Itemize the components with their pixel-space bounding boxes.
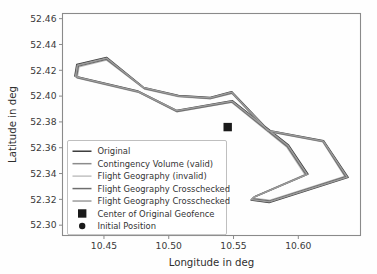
x-tick-label: 10.45 — [91, 240, 117, 251]
y-tick-label: 52.34 — [30, 168, 56, 179]
y-tick-label: 52.44 — [30, 39, 56, 50]
legend-item-label: Center of Original Geofence — [98, 209, 215, 219]
y-tick-label: 52.38 — [30, 116, 56, 127]
x-tick-label: 10.55 — [220, 240, 246, 251]
figure-canvas: OriginalContingency Volume (valid)Flight… — [0, 0, 377, 274]
geofence-center-marker — [223, 123, 231, 131]
legend-circle-swatch — [79, 223, 85, 229]
y-tick-label: 52.30 — [30, 219, 56, 230]
legend-item-label: Flight Geography (invalid) — [98, 171, 207, 181]
legend-item-label: Original — [98, 146, 131, 156]
legend-item[interactable]: Center of Original Geofence — [78, 209, 214, 219]
x-axis-title: Longitude in deg — [169, 257, 255, 268]
legend-item-label: Flight Geography Crosschecked — [98, 184, 231, 194]
legend-item-label: Flight Geography Crosschecked — [98, 196, 231, 206]
legend-item-label: Initial Position — [98, 221, 156, 231]
y-tick-label: 52.46 — [30, 13, 56, 24]
geofence-scatter-plot: OriginalContingency Volume (valid)Flight… — [0, 0, 377, 274]
legend-square-swatch — [78, 209, 86, 217]
x-tick-label: 10.60 — [285, 240, 311, 251]
x-tick-label: 10.50 — [156, 240, 182, 251]
y-tick-label: 52.40 — [30, 90, 56, 101]
y-axis-title: Latitude in deg — [7, 86, 18, 163]
legend-item-label: Contingency Volume (valid) — [98, 159, 214, 169]
y-tick-label: 52.32 — [30, 194, 56, 205]
y-tick-label: 52.36 — [30, 142, 56, 153]
y-tick-label: 52.42 — [30, 65, 56, 76]
